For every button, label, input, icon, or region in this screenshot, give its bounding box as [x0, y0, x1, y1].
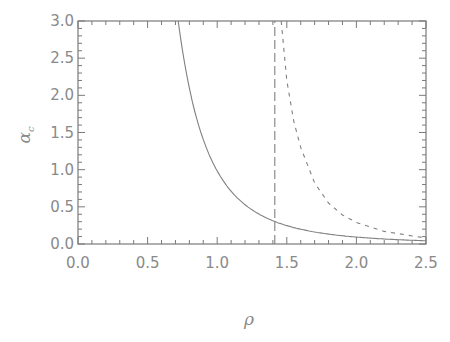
x-tick-label: 1.0 — [205, 254, 229, 272]
y-tick-label: 1.5 — [50, 124, 74, 142]
series-short-dash — [281, 21, 426, 238]
x-tick-label: 0.5 — [136, 254, 160, 272]
x-axis-ticks: 0.00.51.01.52.02.5 — [66, 21, 438, 272]
y-axis-ticks: 0.00.51.01.52.02.53.0 — [50, 12, 426, 253]
y-tick-label: 1.0 — [50, 161, 74, 179]
y-tick-label: 0.0 — [50, 235, 74, 253]
plot-border — [78, 21, 426, 244]
y-tick-label: 0.5 — [50, 198, 74, 216]
x-tick-label: 2.5 — [414, 254, 438, 272]
data-series — [178, 21, 426, 244]
chart: 0.00.51.01.52.02.5 0.00.51.01.52.02.53.0… — [0, 0, 450, 342]
x-axis-label: ρ — [243, 309, 254, 329]
series-solid — [178, 21, 426, 241]
y-tick-label: 2.0 — [50, 86, 74, 104]
y-tick-label: 2.5 — [50, 49, 74, 67]
y-axis-label: αc — [14, 126, 36, 143]
y-axis-label-main: αc — [14, 126, 36, 143]
x-tick-label: 1.5 — [275, 254, 299, 272]
y-tick-label: 3.0 — [50, 12, 74, 30]
x-tick-label: 0.0 — [66, 254, 90, 272]
plot-frame — [78, 21, 426, 244]
x-tick-label: 2.0 — [344, 254, 368, 272]
